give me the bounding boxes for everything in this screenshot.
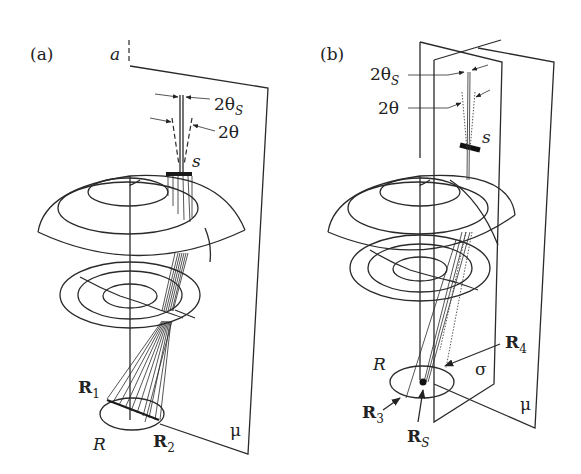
plane-mu-label-a: μ bbox=[230, 420, 241, 440]
plane-sigma bbox=[420, 42, 502, 422]
point-RS: RS bbox=[407, 426, 429, 450]
slit-b-label: s bbox=[482, 127, 491, 147]
axis-a-label: a bbox=[110, 44, 120, 64]
plane-mu-label-b: μ bbox=[520, 394, 531, 414]
panel-a: (a) a s bbox=[30, 40, 268, 455]
plane-mu bbox=[130, 66, 268, 454]
ring-R-label-a: R bbox=[92, 434, 106, 454]
angle-2theta-s-a: 2θS bbox=[214, 94, 243, 118]
upper-lens bbox=[38, 175, 245, 262]
panel-a-label: (a) bbox=[30, 44, 53, 64]
slit-a-label: s bbox=[192, 151, 201, 171]
plane-sigma-label: σ bbox=[475, 359, 487, 379]
point-RS-dot bbox=[420, 379, 427, 386]
angle-2theta-b: 2θ bbox=[378, 98, 399, 118]
point-R3: R3 bbox=[362, 402, 384, 426]
ring-R-a bbox=[100, 398, 164, 430]
panel-b-label: (b) bbox=[320, 44, 344, 64]
point-R4: R4 bbox=[505, 332, 527, 356]
panel-b: (b) s 2θS 2θ bbox=[320, 40, 554, 450]
upper-lens-b bbox=[328, 175, 515, 250]
ring-R-label-b: R bbox=[372, 354, 386, 374]
angle-2theta-a: 2θ bbox=[218, 122, 239, 142]
point-R1: R1 bbox=[78, 377, 100, 401]
diagram-figure: (a) a s bbox=[0, 0, 581, 474]
arc-R1-R2 bbox=[107, 400, 159, 420]
point-R2: R2 bbox=[153, 431, 175, 455]
angle-2theta-s-b: 2θS bbox=[370, 64, 399, 88]
ray-fan-a bbox=[107, 253, 188, 422]
